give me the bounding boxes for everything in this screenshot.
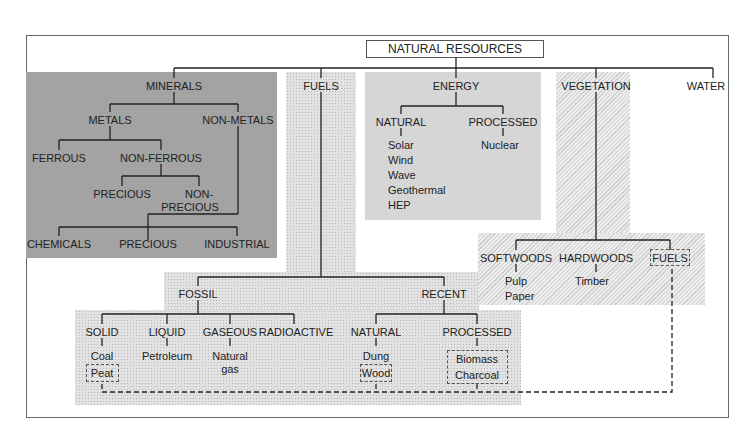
fuel-item-natural-gas-line2: gas [221, 363, 239, 375]
fuel-item-charcoal: Charcoal [455, 369, 499, 381]
node-non-ferrous: NON-FERROUS [120, 152, 202, 164]
veg-item-paper: Paper [505, 290, 534, 302]
energy-item-hep: HEP [388, 199, 411, 211]
node-gaseous: GASEOUS [203, 326, 257, 338]
node-fossil: FOSSIL [178, 288, 217, 300]
fuel-item-dung: Dung [363, 350, 389, 362]
node-metals: METALS [88, 114, 131, 126]
node-water: WATER [687, 80, 726, 92]
fuel-item-petroleum: Petroleum [142, 350, 192, 362]
node-non-precious-line1: NON- [185, 188, 213, 200]
node-ferrous: FERROUS [32, 152, 86, 164]
node-precious: PRECIOUS [93, 188, 150, 200]
veg-item-timber: Timber [575, 275, 609, 287]
node-energy-processed: PROCESSED [468, 116, 537, 128]
node-solid: SOLID [85, 326, 118, 338]
node-softwoods: SOFTWOODS [480, 252, 552, 264]
node-chemicals: CHEMICALS [27, 238, 91, 250]
node-industrial: INDUSTRIAL [204, 238, 269, 250]
root-node-natural-resources: NATURAL RESOURCES [366, 40, 544, 58]
fuel-item-coal: Coal [91, 350, 114, 362]
energy-item-wind: Wind [388, 154, 413, 166]
energy-item-wave: Wave [388, 169, 416, 181]
node-non-metals: NON-METALS [202, 114, 273, 126]
node-liquid: LIQUID [149, 326, 186, 338]
veg-item-pulp: Pulp [505, 275, 527, 287]
node-energy-natural: NATURAL [376, 116, 427, 128]
node-nm-precious: PRECIOUS [119, 238, 176, 250]
fuel-item-peat: Peat [91, 367, 114, 379]
node-fuels: FUELS [303, 80, 338, 92]
node-recent: RECENT [421, 288, 466, 300]
node-recent-processed: PROCESSED [442, 326, 511, 338]
node-hardwoods: HARDWOODS [559, 252, 633, 264]
fuel-item-natural-gas-line1: Natural [212, 350, 247, 362]
node-radioactive: RADIOACTIVE [259, 326, 334, 338]
fuel-item-wood: Wood [362, 367, 391, 379]
node-minerals: MINERALS [146, 80, 202, 92]
node-energy: ENERGY [433, 80, 479, 92]
node-vegetation: VEGETATION [561, 80, 630, 92]
energy-item-geothermal: Geothermal [388, 184, 445, 196]
node-non-precious-line2: PRECIOUS [161, 201, 218, 213]
energy-item-nuclear: Nuclear [481, 139, 519, 151]
energy-item-solar: Solar [388, 139, 414, 151]
fuel-item-biomass: Biomass [456, 353, 498, 365]
node-vegetation-fuels: FUELS [652, 252, 687, 264]
node-recent-natural: NATURAL [351, 326, 402, 338]
